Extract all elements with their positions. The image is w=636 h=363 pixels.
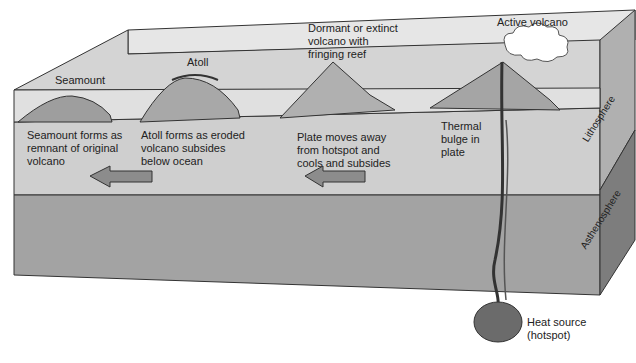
desc-thermal-bulge: Thermal bulge in plate xyxy=(441,120,481,159)
asthenosphere-front xyxy=(14,195,600,295)
label-dormant-volcano: Dormant or extinct volcano with fringing… xyxy=(308,22,398,61)
hotspot-blob xyxy=(474,302,522,342)
desc-seamount: Seamount forms as remnant of original vo… xyxy=(27,129,122,168)
label-atoll: Atoll xyxy=(187,56,208,69)
label-active-volcano: Active volcano xyxy=(497,16,568,29)
label-heat-source: Heat source (hotspot) xyxy=(527,316,586,342)
desc-atoll: Atoll forms as eroded volcano subsides b… xyxy=(141,129,245,168)
desc-plate: Plate moves away from hotspot and cools … xyxy=(297,131,391,170)
label-seamount: Seamount xyxy=(55,74,105,87)
